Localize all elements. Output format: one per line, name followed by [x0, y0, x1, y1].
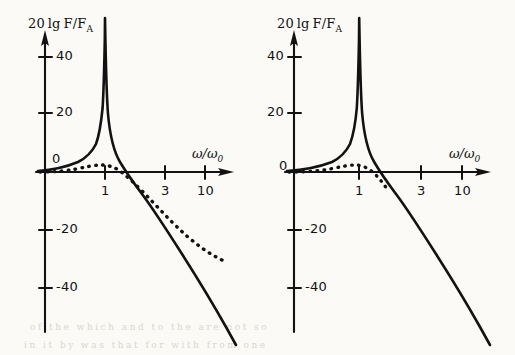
- figure-canvas: of the which and to the are not so in it…: [0, 0, 515, 355]
- right-panel-svg: [249, 0, 515, 355]
- right-xtick-label-3: 3: [417, 183, 426, 198]
- right-xtick-label-1: 1: [355, 183, 364, 198]
- left-y-axis-title: 20 lg F/F_A20 lg F/FA: [28, 16, 93, 34]
- right-x-axis-title: ω/ω₀ω/ω0: [449, 146, 480, 164]
- right-curve-undamped: [287, 18, 490, 345]
- left-ytick-label-0: 0: [52, 151, 61, 166]
- right-ytick-label-neg40: -40: [305, 279, 327, 294]
- left-ytick-label-neg40: -40: [56, 279, 78, 294]
- right-ytick-label-40: 40: [267, 48, 284, 63]
- right-panel: 20 lg F/F_A20 lg F/FA 40 20 0 -20 -40 1 …: [249, 0, 507, 355]
- left-curve-undamped: [38, 18, 236, 345]
- left-x-axis-title: ω/ω₀ω/ω0: [192, 146, 223, 164]
- right-ytick-label-0: 0: [279, 158, 288, 173]
- left-panel-svg: [0, 0, 258, 355]
- left-xtick-label-1: 1: [101, 183, 110, 198]
- left-xtick-label-10: 10: [197, 183, 214, 198]
- right-y-axis-title: 20 lg F/F_A20 lg F/FA: [277, 16, 342, 34]
- left-ytick-label-neg20: -20: [56, 221, 78, 236]
- left-ytick-label-20: 20: [56, 104, 73, 119]
- left-ytick-label-40: 40: [56, 48, 73, 63]
- right-xtick-label-10: 10: [454, 183, 471, 198]
- left-xtick-label-3: 3: [161, 183, 170, 198]
- right-ytick-label-20: 20: [267, 104, 284, 119]
- right-ytick-label-neg20: -20: [305, 221, 327, 236]
- left-panel: 20 lg F/F_A20 lg F/FA 40 20 0 -20 -40 1 …: [0, 0, 258, 355]
